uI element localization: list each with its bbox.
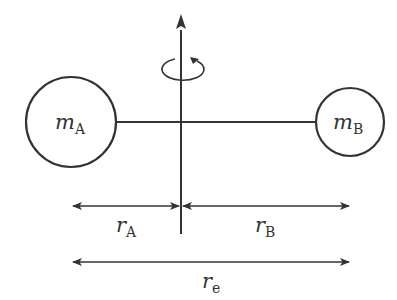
re-label: re — [202, 271, 220, 295]
diagram-canvas — [0, 0, 397, 300]
ra-label: rA — [116, 215, 136, 239]
rotation-arrow-icon — [162, 57, 204, 80]
rotation-axis — [176, 14, 186, 234]
mass-a-label: mA — [55, 112, 85, 136]
rb-label: rB — [255, 215, 275, 239]
axis-arrowhead-icon — [176, 14, 186, 29]
mass-b-label: mB — [333, 112, 363, 136]
